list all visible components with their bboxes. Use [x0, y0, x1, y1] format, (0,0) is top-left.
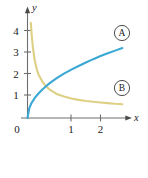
figure-container: y x 1 2 3 4 1 2 [0, 0, 148, 178]
curve-a-path [28, 48, 123, 118]
y-tick-label-1: 1 [13, 89, 19, 101]
y-axis-label: y [31, 2, 37, 13]
x-axis: x [21, 112, 139, 123]
badge-b-text: B [119, 83, 125, 93]
x-axis-label: x [133, 112, 139, 123]
x-axis-arrow-icon [125, 115, 132, 120]
graph-plot: y x 1 2 3 4 1 2 [0, 0, 148, 178]
badge-a-text: A [119, 28, 126, 38]
y-tick-label-2: 2 [13, 68, 19, 80]
x-tick-label-2: 2 [98, 123, 104, 135]
curve-b-path [31, 23, 123, 104]
y-tick-label-3: 3 [13, 46, 19, 58]
x-tick-label-1: 1 [68, 123, 74, 135]
origin-label: 0 [14, 123, 20, 135]
y-tick-labels: 1 2 3 4 [13, 25, 19, 102]
y-tick-label-4: 4 [13, 25, 19, 37]
curve-b-badge: B [114, 80, 129, 95]
x-tick-labels: 1 2 [68, 123, 103, 135]
curve-a-badge: A [114, 25, 129, 40]
y-axis-arrow-icon [25, 7, 30, 14]
